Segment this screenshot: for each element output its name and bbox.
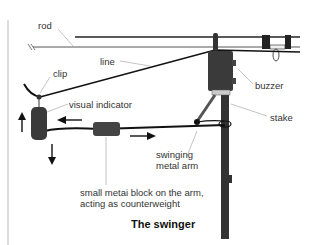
label-block-1: small metai block on the arm,	[80, 187, 204, 198]
label-buzzer: buzzer	[255, 80, 284, 91]
buzzer	[208, 51, 233, 91]
label-swinging-arm-1: swinging	[156, 149, 193, 160]
diagram-title: The swinger	[131, 218, 195, 230]
counterweight-block	[93, 122, 120, 136]
label-swinging-arm-2: metal arm	[156, 160, 198, 171]
label-visual-indicator: visual indicator	[69, 99, 132, 110]
stake	[221, 91, 229, 239]
label-clip: clip	[53, 68, 67, 79]
label-rod: rod	[38, 20, 52, 31]
swinging-arm	[45, 125, 225, 131]
label-block-2: acting as counterweight	[80, 198, 180, 209]
label-stake: stake	[270, 112, 293, 123]
visual-indicator	[31, 107, 47, 140]
label-line: line	[100, 56, 115, 67]
rod	[28, 35, 300, 61]
